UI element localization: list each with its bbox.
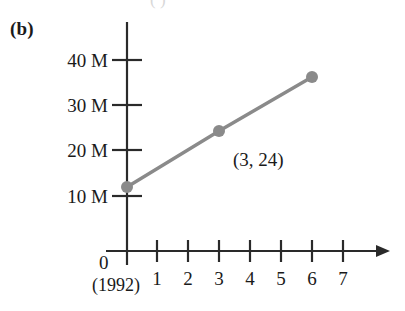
- y-tick-label-40m: 40 M: [52, 51, 108, 70]
- y-tick-label-20m: 20 M: [52, 141, 108, 160]
- origin-label: 0: [99, 253, 109, 272]
- data-point-marker: [121, 181, 133, 193]
- y-tick-label-10m: 10 M: [52, 187, 108, 206]
- x-tick-label-3: 3: [214, 269, 224, 288]
- data-point-annotation: (3, 24): [233, 150, 284, 169]
- x-tick-label-2: 2: [183, 269, 193, 288]
- x-axis-arrowhead: [376, 245, 390, 257]
- x-tick-label-6: 6: [307, 269, 317, 288]
- x-tick-label-5: 5: [276, 269, 286, 288]
- data-point-marker: [213, 125, 225, 137]
- x-tick-label-4: 4: [245, 269, 255, 288]
- data-point-marker: [306, 71, 318, 83]
- x-tick-label-7: 7: [338, 269, 348, 288]
- x-tick-label-1: 1: [152, 269, 162, 288]
- figure-panel-b: ( ) (b): [0, 0, 405, 311]
- y-tick-label-30m: 30 M: [52, 96, 108, 115]
- origin-year-label: (1992): [92, 276, 140, 294]
